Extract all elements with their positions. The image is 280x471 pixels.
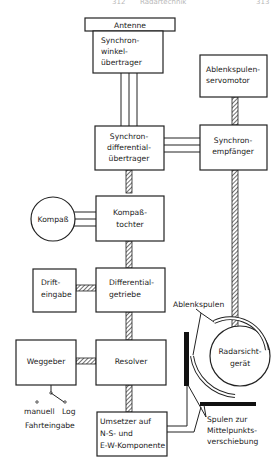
svg-text:empfänger: empfänger	[212, 147, 255, 156]
weggeber-block: Weggeber	[16, 340, 76, 385]
differentialgetriebe-block: Differential- getriebe	[96, 268, 165, 312]
svg-text:Weggeber: Weggeber	[27, 357, 67, 366]
shaft-empfaenger-to-coils	[232, 170, 238, 327]
svg-text:Radarsicht-: Radarsicht-	[218, 347, 261, 356]
fahrteingabe-label: Fahrteingabe	[25, 421, 75, 430]
svg-text:Synchron-: Synchron-	[214, 136, 253, 145]
three-wire-diff-to-empfaenger	[164, 138, 200, 152]
svg-text:übertrager: übertrager	[109, 154, 151, 163]
three-wire-kompass-to-tochter	[74, 212, 96, 226]
three-wire-antenna-to-diff	[121, 72, 137, 126]
resolver-block: Resolver	[96, 340, 166, 385]
svg-text:E-W-Komponente: E-W-Komponente	[100, 441, 166, 450]
kompass-block: Kompaß	[31, 197, 75, 241]
svg-text:servomotor: servomotor	[206, 76, 251, 85]
svg-text:übertrager: übertrager	[101, 58, 143, 67]
shaft-resolver-to-umsetzer	[126, 385, 132, 412]
svg-text:Kompaß: Kompaß	[38, 215, 69, 224]
svg-text:Resolver: Resolver	[115, 357, 148, 366]
page-number-left: 312	[112, 0, 125, 6]
svg-text:Drift-: Drift-	[41, 278, 61, 287]
synchronempfaenger-block: Synchron- empfänger	[200, 125, 267, 170]
centering-coil-vertical	[184, 332, 189, 386]
log-label: Log	[62, 407, 76, 416]
svg-text:Umsetzer auf: Umsetzer auf	[100, 417, 151, 426]
spulen-leader	[188, 385, 206, 417]
svg-text:tochter: tochter	[116, 220, 144, 229]
shaft-weggeber-to-resolver	[76, 358, 96, 364]
shaft-getriebe-to-resolver	[126, 312, 132, 340]
shaft-tochter-to-getriebe	[126, 241, 132, 268]
svg-text:Mittelpunkts-: Mittelpunkts-	[207, 426, 257, 435]
svg-text:Spulen zur: Spulen zur	[207, 415, 248, 424]
wires-umsetzer-to-coils	[167, 384, 201, 432]
shaft-diff-to-tochter	[126, 170, 132, 193]
page-header: 312 Radartechnik 313	[112, 0, 269, 6]
shaft-servo-to-empfaenger	[232, 97, 238, 125]
chapter-title: Radartechnik	[140, 0, 187, 6]
kompasstochter-block: Kompaß- tochter	[96, 196, 164, 241]
svg-text:Synchron-: Synchron-	[101, 36, 140, 45]
ablenkspulen-leader-2	[193, 313, 201, 355]
svg-text:N-S- und: N-S- und	[100, 429, 133, 438]
synchrondifferential-uebertrager-block: Synchron- differential- übertrager	[95, 126, 164, 170]
antenne-label: Antenne	[114, 21, 146, 30]
ablenkspulen-servomotor-block: Ablenkspulen- servomotor	[200, 55, 267, 97]
ablenkspulen-label: Ablenkspulen	[173, 300, 224, 309]
page-number-right: 313	[256, 0, 269, 6]
svg-text:eingabe: eingabe	[41, 290, 72, 299]
centering-coil-horizontal	[200, 402, 256, 406]
manuell-label: manuell	[24, 407, 55, 416]
synchronwinkel-uebertrager-block: Synchron- winkel- übertrager	[93, 31, 163, 73]
antenne-block: Antenne	[85, 18, 175, 31]
svg-text:differential-: differential-	[107, 143, 151, 152]
fahrt-switch: manuell Log Fahrteingabe	[24, 385, 76, 430]
ablenkspulen-leader	[196, 309, 214, 322]
svg-text:Kompaß-: Kompaß-	[113, 208, 147, 217]
drifteingabe-block: Drift- eingabe	[33, 269, 76, 312]
svg-text:Differential-: Differential-	[109, 278, 154, 287]
svg-text:gerät: gerät	[230, 359, 250, 368]
svg-text:getriebe: getriebe	[109, 290, 141, 299]
umsetzer-block: Umsetzer auf N-S- und E-W-Komponente	[97, 412, 167, 456]
shaft-drift-to-getriebe	[76, 285, 96, 291]
svg-text:Synchron-: Synchron-	[110, 132, 149, 141]
svg-text:winkel-: winkel-	[101, 47, 128, 56]
svg-text:Ablenkspulen-: Ablenkspulen-	[206, 65, 260, 74]
svg-text:verschiebung: verschiebung	[207, 437, 258, 446]
block-diagram: 312 Radartechnik 313 Antenne Synchron- w…	[0, 0, 280, 471]
